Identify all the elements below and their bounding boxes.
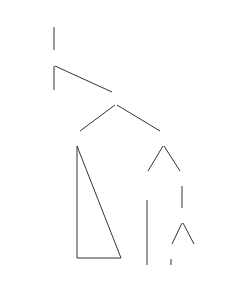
branch-vbar-v xyxy=(172,223,182,244)
np-subject-triangle xyxy=(77,146,121,258)
branch-vbar-np xyxy=(183,223,194,244)
branch-ibar-i xyxy=(148,146,163,171)
branch-ip-np xyxy=(80,105,115,131)
tree-branches xyxy=(54,27,194,265)
syntax-tree: I'm going to stop there, because that ma… xyxy=(0,0,244,295)
branch-ibar-vp xyxy=(164,146,180,171)
branch-ip-ibar xyxy=(117,105,160,131)
branch-cbar-ip xyxy=(55,66,112,92)
